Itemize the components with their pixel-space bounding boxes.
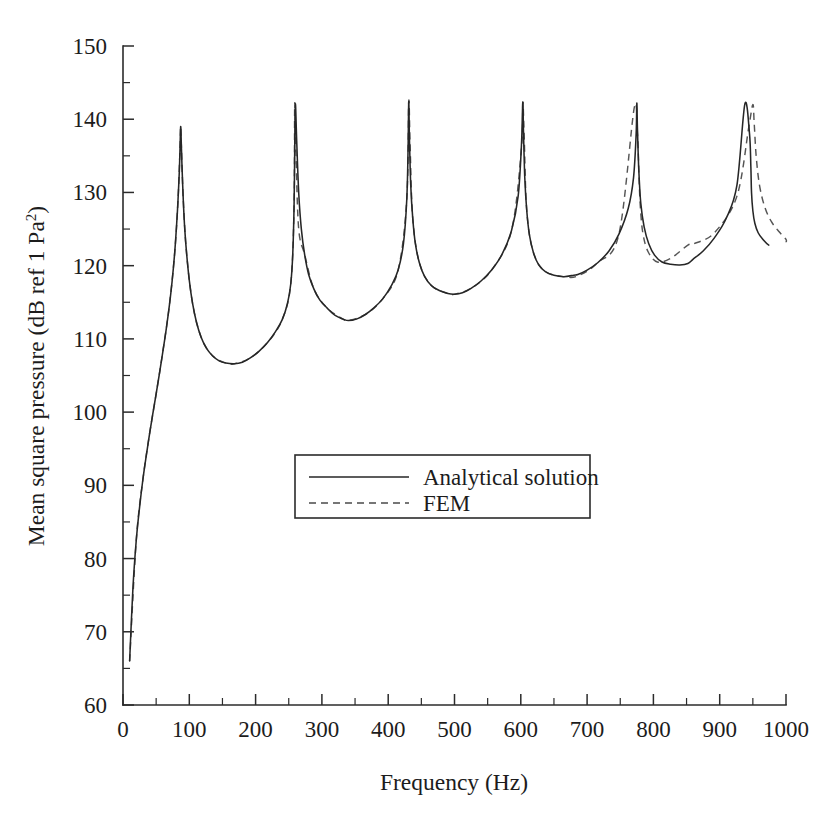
y-tick-label: 70 — [84, 620, 107, 645]
y-tick-label: 80 — [84, 547, 107, 572]
figure-container: 60708090100110120130140150 0100200300400… — [0, 0, 835, 818]
y-axis-title-main: Mean square pressure (dB ref 1 Pa — [23, 221, 49, 547]
y-axis-title-superscript: 2 — [23, 214, 39, 222]
y-tick-label: 150 — [73, 34, 108, 59]
y-axis-title-tail: ) — [23, 206, 49, 214]
x-tick-label: 600 — [504, 717, 539, 742]
y-tick-label: 130 — [73, 180, 108, 205]
y-tick-label: 120 — [73, 254, 108, 279]
y-axis-title: Mean square pressure (dB ref 1 Pa2) — [23, 206, 49, 546]
curve-analytical-solution — [130, 102, 769, 662]
legend[interactable]: Analytical solution FEM — [295, 455, 599, 518]
y-tick-label: 90 — [84, 473, 107, 498]
x-tick-label: 800 — [636, 717, 671, 742]
x-tick-label: 200 — [238, 717, 273, 742]
curve-fem — [130, 100, 787, 661]
y-tick-label: 140 — [73, 107, 108, 132]
x-tick-label: 1000 — [763, 717, 809, 742]
x-axis-tick-labels: 01002003004005006007008009001000 — [117, 717, 809, 742]
y-tick-label: 60 — [84, 693, 107, 718]
data-curves — [130, 100, 787, 661]
x-axis-title: Frequency (Hz) — [380, 769, 528, 795]
x-tick-label: 400 — [371, 717, 406, 742]
x-tick-label: 100 — [172, 717, 207, 742]
x-tick-label: 700 — [570, 717, 605, 742]
y-tick-label: 100 — [73, 400, 108, 425]
legend-label-fem: FEM — [423, 491, 470, 516]
legend-label-analytical-solution: Analytical solution — [423, 465, 599, 490]
y-tick-label: 110 — [73, 327, 107, 352]
x-axis-ticks — [123, 694, 786, 705]
axes — [123, 46, 786, 705]
x-tick-label: 0 — [117, 717, 129, 742]
mean-square-pressure-chart: 60708090100110120130140150 0100200300400… — [0, 0, 835, 818]
x-tick-label: 500 — [437, 717, 472, 742]
x-tick-label: 300 — [305, 717, 340, 742]
y-axis-tick-labels: 60708090100110120130140150 — [73, 34, 108, 718]
x-tick-label: 900 — [702, 717, 737, 742]
